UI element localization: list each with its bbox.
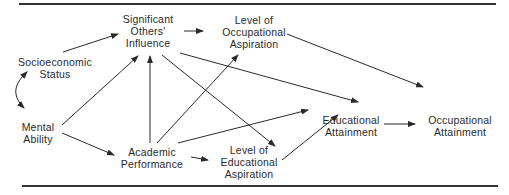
- node-line: Educational: [322, 114, 379, 126]
- node-level-of-occupational-aspiration: Level of Occupational Aspiration: [222, 14, 286, 50]
- arrow-ses-to-soi: [63, 34, 118, 52]
- node-line: Educational: [220, 156, 277, 168]
- node-line: Level of: [222, 14, 286, 26]
- node-educational-attainment: Educational Attainment: [322, 114, 379, 138]
- node-line: Performance: [121, 158, 183, 170]
- arrow-loa-to-oa: [287, 34, 423, 87]
- node-line: Aspiration: [220, 168, 277, 180]
- arrow-ma-to-ap: [62, 133, 114, 155]
- node-mental-ability: Mental Ability: [22, 121, 55, 145]
- node-line: Attainment: [322, 126, 379, 138]
- node-line: Ability: [22, 133, 55, 145]
- arrow-ses-ma-correlation: [16, 76, 24, 108]
- arrow-soi-to-ea: [180, 53, 358, 102]
- arrow-ap-to-ea: [178, 110, 308, 143]
- node-line: Status: [18, 68, 92, 80]
- node-line: Influence: [123, 37, 174, 49]
- node-line: Attainment: [428, 126, 492, 138]
- arrow-ap-to-lea: [191, 157, 208, 160]
- node-academic-performance: Academic Performance: [121, 146, 183, 170]
- node-level-of-educational-aspiration: Level of Educational Aspiration: [220, 144, 277, 180]
- node-line: Mental: [22, 121, 55, 133]
- node-line: Level of: [220, 144, 277, 156]
- node-significant-others-influence: Significant Others' Influence: [123, 13, 174, 49]
- node-line: Aspiration: [222, 38, 286, 50]
- node-line: Occupational: [428, 114, 492, 126]
- node-occupational-attainment: Occupational Attainment: [428, 114, 492, 138]
- path-diagram: Significant Others' Influence Level of O…: [0, 0, 509, 195]
- node-line: Significant: [123, 13, 174, 25]
- node-line: Others': [123, 25, 174, 37]
- node-socioeconomic-status: Socioeconomic Status: [18, 56, 92, 80]
- node-line: Occupational: [222, 26, 286, 38]
- arrow-ap-to-loa: [157, 55, 238, 143]
- node-line: Academic: [121, 146, 183, 158]
- node-line: Socioeconomic: [18, 56, 92, 68]
